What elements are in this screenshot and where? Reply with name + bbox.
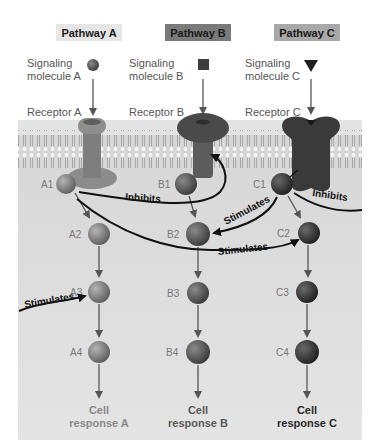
- response-c-line1: Cell: [297, 404, 317, 416]
- node-a2: [88, 223, 110, 245]
- node-c2-label: C2: [277, 228, 290, 239]
- node-a3: [88, 281, 110, 303]
- node-a1-label: A1: [41, 179, 54, 190]
- node-c3: [296, 281, 318, 303]
- node-b3-label: B3: [167, 288, 180, 299]
- node-b3: [187, 282, 209, 304]
- molecule-a-label-1: Signaling: [27, 57, 72, 69]
- response-a-line2: response A: [69, 417, 129, 429]
- molecule-b-label-2: molecule B: [129, 70, 183, 82]
- response-c-line2: response C: [277, 417, 337, 429]
- pathway-b-header: Pathway B: [165, 24, 231, 41]
- pathway-c-header: Pathway C: [274, 24, 340, 41]
- node-a1: [56, 174, 76, 194]
- response-b-line2: response B: [168, 417, 228, 429]
- molecule-c-label-1: Signaling: [245, 57, 290, 69]
- node-b2: [186, 222, 210, 246]
- signaling-molecule-c-icon: [304, 60, 318, 72]
- node-b4: [186, 340, 210, 364]
- node-b1-label: B1: [158, 179, 171, 190]
- node-c1-label: C1: [253, 179, 266, 190]
- molecule-b-label-1: Signaling: [129, 57, 174, 69]
- node-b4-label: B4: [166, 347, 179, 358]
- node-a2-label: A2: [69, 229, 82, 240]
- node-a4: [88, 341, 110, 363]
- node-b2-label: B2: [167, 229, 180, 240]
- svg-text:Pathway A: Pathway A: [61, 27, 116, 39]
- node-b1: [175, 173, 197, 195]
- receptor-c-label: Receptor C: [245, 106, 301, 118]
- pathway-a-header: Pathway A: [56, 24, 122, 41]
- molecule-a-label-2: molecule A: [27, 70, 81, 82]
- response-b-line1: Cell: [188, 404, 208, 416]
- signaling-pathways-diagram: Pathway A Pathway B Pathway C Signaling …: [0, 0, 378, 447]
- molecule-c-label-2: molecule C: [245, 70, 300, 82]
- receptor-b-label: Receptor B: [129, 106, 184, 118]
- node-a4-label: A4: [70, 347, 83, 358]
- node-c4: [295, 340, 319, 364]
- response-a-line1: Cell: [89, 404, 109, 416]
- svg-text:Pathway C: Pathway C: [279, 27, 335, 39]
- signaling-molecule-b-icon: [198, 59, 209, 70]
- node-c2: [298, 222, 320, 244]
- svg-text:Pathway B: Pathway B: [170, 27, 226, 39]
- node-c4-label: C4: [276, 347, 289, 358]
- signaling-molecule-a-icon: [87, 59, 99, 71]
- node-c3-label: C3: [276, 287, 289, 298]
- receptor-a-label: Receptor A: [27, 106, 82, 118]
